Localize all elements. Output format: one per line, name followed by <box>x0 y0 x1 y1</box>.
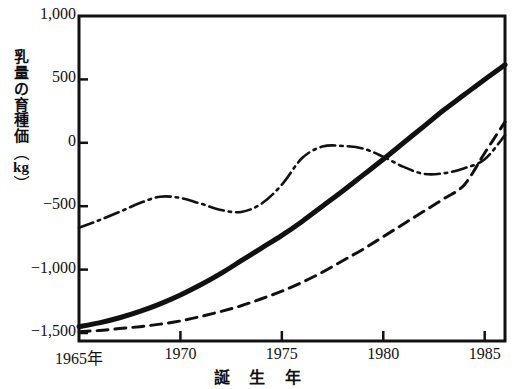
x-tick-label: 1975 <box>266 345 298 363</box>
x-tick-label-group: 1965年1970197519801985 <box>0 0 515 389</box>
x-axis-title: 誕 生 年 <box>0 364 515 388</box>
chart-figure: 乳 量 の 育 種 価（kg） 1,0005000−500−1,000−1,50… <box>0 0 515 389</box>
x-tick-label: 1985 <box>469 345 501 363</box>
x-tick-label: 1970 <box>164 345 196 363</box>
x-tick-label: 1980 <box>367 345 399 363</box>
